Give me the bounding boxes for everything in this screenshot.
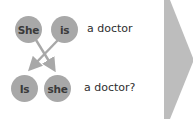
chevron-right-icon [0,0,193,119]
word-order-diagram: She is a doctor Is she a doctor? [0,0,193,119]
